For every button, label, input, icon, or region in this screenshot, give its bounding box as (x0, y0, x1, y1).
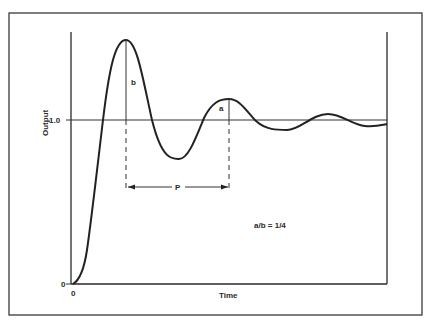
chart-figure: b a P a/b = 1/4 1.0 0 0 Time Output (0, 0, 428, 324)
response-curve (73, 40, 387, 284)
y-tick-one: 1.0 (49, 116, 61, 125)
label-a: a (219, 104, 224, 113)
arrowhead-left-icon (128, 185, 135, 190)
arrowhead-right-icon (221, 185, 228, 190)
label-ratio: a/b = 1/4 (254, 221, 286, 230)
y-axis-label: Output (41, 109, 50, 136)
x-tick-zero: 0 (71, 289, 76, 298)
x-axis-label: Time (219, 291, 238, 300)
label-b: b (131, 78, 136, 87)
y-tick-zero: 0 (61, 280, 66, 289)
label-period: P (175, 183, 181, 192)
